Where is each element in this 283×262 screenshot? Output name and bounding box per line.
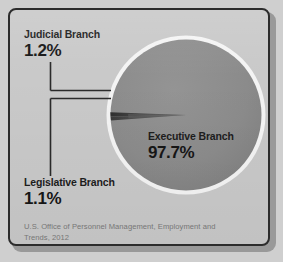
figure-canvas: Judicial Branch 1.2% Legislative Branch … bbox=[0, 0, 283, 262]
callout-executive-value: 97.7% bbox=[148, 143, 234, 162]
source-note: U.S. Office of Personnel Management, Emp… bbox=[24, 222, 242, 243]
callout-judicial-name: Judicial Branch bbox=[24, 28, 100, 40]
callout-judicial-value: 1.2% bbox=[24, 41, 100, 60]
callout-legislative-value: 1.1% bbox=[24, 189, 115, 208]
callout-legislative-name: Legislative Branch bbox=[24, 176, 115, 188]
callout-judicial-branch: Judicial Branch 1.2% bbox=[24, 28, 100, 60]
chart-frame: Judicial Branch 1.2% Legislative Branch … bbox=[8, 8, 270, 246]
chart-stage: Judicial Branch 1.2% Legislative Branch … bbox=[10, 10, 268, 244]
callout-executive-name: Executive Branch bbox=[148, 130, 234, 142]
callout-executive-branch: Executive Branch 97.7% bbox=[148, 130, 234, 162]
callout-legislative-branch: Legislative Branch 1.1% bbox=[24, 176, 115, 208]
